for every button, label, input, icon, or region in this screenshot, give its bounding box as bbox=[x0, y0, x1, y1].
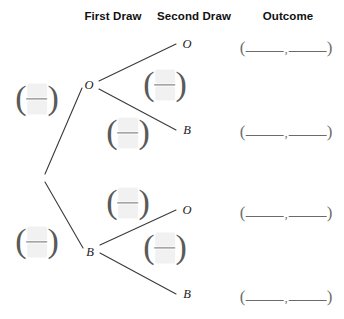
fraction-stack bbox=[155, 69, 176, 100]
left-parenthesis: ( bbox=[240, 204, 246, 221]
outcome-oo: (,) bbox=[240, 38, 333, 54]
fraction-stack bbox=[118, 117, 139, 148]
second-draw-node-b-bottom: B bbox=[183, 287, 191, 302]
fraction-bar bbox=[27, 241, 48, 242]
left-parenthesis: ( bbox=[106, 188, 117, 219]
left-parenthesis: ( bbox=[143, 70, 154, 101]
right-parenthesis: ) bbox=[327, 204, 333, 221]
denominator-input[interactable] bbox=[27, 244, 47, 258]
numerator-input[interactable] bbox=[118, 117, 138, 131]
prob-first-draw-orange: () bbox=[15, 83, 59, 114]
right-parenthesis: ) bbox=[48, 84, 59, 115]
outcome-first-input[interactable] bbox=[245, 51, 283, 52]
left-parenthesis: ( bbox=[106, 118, 117, 149]
prob-second-draw-b-given-o: () bbox=[106, 117, 150, 148]
fraction-bar bbox=[118, 202, 139, 203]
outcome-first-input[interactable] bbox=[245, 300, 283, 301]
outcome-first-input[interactable] bbox=[245, 216, 283, 217]
right-parenthesis: ) bbox=[139, 188, 150, 219]
outcome-second-input[interactable] bbox=[289, 300, 327, 301]
column-header-second-draw: Second Draw bbox=[157, 10, 231, 22]
outcome-separator: , bbox=[284, 126, 287, 139]
fraction-bar bbox=[155, 247, 176, 248]
right-parenthesis: ) bbox=[139, 118, 150, 149]
denominator-input[interactable] bbox=[27, 101, 47, 115]
prob-second-draw-o-given-o: () bbox=[143, 69, 187, 100]
outcome-second-input[interactable] bbox=[289, 51, 327, 52]
second-draw-node-o-top: O bbox=[182, 37, 191, 52]
outcome-separator: , bbox=[284, 207, 287, 220]
right-parenthesis: ) bbox=[327, 123, 333, 140]
left-parenthesis: ( bbox=[15, 227, 26, 258]
column-header-outcome: Outcome bbox=[263, 10, 314, 22]
fraction-bar bbox=[118, 132, 139, 133]
prob-second-draw-b-given-b: () bbox=[143, 232, 187, 263]
denominator-input[interactable] bbox=[155, 87, 175, 101]
fraction-stack bbox=[27, 83, 48, 114]
outcome-separator: , bbox=[284, 291, 287, 304]
outcome-bo: (,) bbox=[240, 203, 333, 219]
outcome-ob: (,) bbox=[240, 122, 333, 138]
first-draw-node-blue: B bbox=[86, 245, 94, 260]
numerator-input[interactable] bbox=[27, 83, 47, 97]
left-parenthesis: ( bbox=[240, 39, 246, 56]
fraction-stack bbox=[118, 187, 139, 218]
outcome-separator: , bbox=[284, 42, 287, 55]
denominator-input[interactable] bbox=[118, 135, 138, 149]
left-parenthesis: ( bbox=[143, 233, 154, 264]
right-parenthesis: ) bbox=[327, 288, 333, 305]
prob-first-draw-blue: () bbox=[15, 226, 59, 257]
numerator-input[interactable] bbox=[155, 232, 175, 246]
denominator-input[interactable] bbox=[118, 205, 138, 219]
left-parenthesis: ( bbox=[240, 123, 246, 140]
right-parenthesis: ) bbox=[176, 70, 187, 101]
fraction-bar bbox=[155, 84, 176, 85]
column-header-first-draw: First Draw bbox=[84, 10, 141, 22]
second-draw-node-b-top: B bbox=[183, 123, 191, 138]
first-draw-node-orange: O bbox=[84, 78, 93, 93]
denominator-input[interactable] bbox=[155, 250, 175, 264]
numerator-input[interactable] bbox=[155, 69, 175, 83]
right-parenthesis: ) bbox=[48, 227, 59, 258]
numerator-input[interactable] bbox=[27, 226, 47, 240]
left-parenthesis: ( bbox=[15, 84, 26, 115]
left-parenthesis: ( bbox=[240, 288, 246, 305]
fraction-bar bbox=[27, 98, 48, 99]
right-parenthesis: ) bbox=[327, 39, 333, 56]
outcome-first-input[interactable] bbox=[245, 135, 283, 136]
fraction-stack bbox=[27, 226, 48, 257]
numerator-input[interactable] bbox=[118, 187, 138, 201]
outcome-second-input[interactable] bbox=[289, 135, 327, 136]
outcome-bb: (,) bbox=[240, 287, 333, 303]
right-parenthesis: ) bbox=[176, 233, 187, 264]
outcome-second-input[interactable] bbox=[289, 216, 327, 217]
prob-second-draw-o-given-b: () bbox=[106, 187, 150, 218]
fraction-stack bbox=[155, 232, 176, 263]
second-draw-node-o-bottom: O bbox=[182, 203, 191, 218]
